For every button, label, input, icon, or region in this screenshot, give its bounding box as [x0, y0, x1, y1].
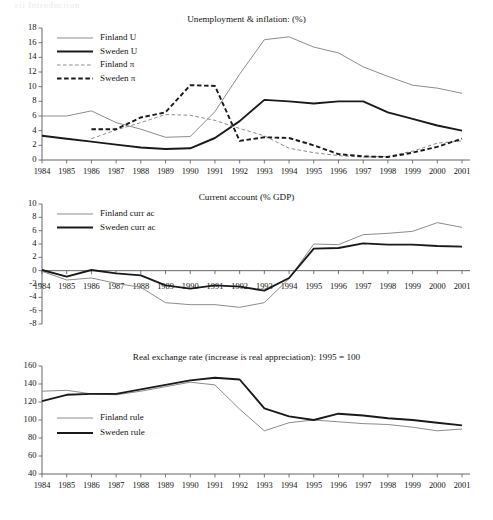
x-tick-label: 1992 [231, 167, 248, 176]
x-tick-label: 2000 [429, 167, 446, 176]
x-tick-label: 1986 [83, 167, 100, 176]
y-tick-label: -6 [29, 305, 37, 315]
x-tick-label: 1986 [83, 481, 100, 490]
x-tick-label: 1988 [132, 481, 149, 490]
x-tick-label: 1999 [404, 481, 421, 490]
y-tick-label: 2 [32, 139, 36, 149]
x-tick-label: 1999 [404, 167, 421, 176]
x-tick-label: 1996 [330, 282, 347, 291]
y-tick-label: 8 [32, 211, 36, 221]
series-line-sweden-curr-ac [42, 243, 462, 290]
x-tick-label: 1992 [231, 481, 248, 490]
legend-label-2: Sweden U [100, 46, 138, 56]
chart-svg-unemployment-inflation: 0246810121416181984198519861987198819891… [0, 14, 493, 196]
y-tick-label: 6 [32, 225, 37, 235]
x-tick-label: 1998 [380, 282, 397, 291]
y-tick-label: 10 [28, 198, 37, 208]
legend-label-4: Sweden π [100, 73, 136, 83]
y-tick-label: 80 [28, 432, 37, 442]
y-tick-label: -4 [29, 291, 37, 301]
y-tick-label: 10 [28, 81, 37, 91]
y-tick-label: 2 [32, 251, 36, 261]
y-tick-label: 12 [28, 66, 37, 76]
chart-panel-real-exchange-rate: Real exchange rate (increase is real app… [0, 352, 493, 520]
running-head: xii Introduction [14, 0, 80, 10]
x-tick-label: 1991 [207, 167, 224, 176]
legend-label-1: Finland curr ac [100, 208, 154, 218]
x-tick-label: 1997 [355, 167, 372, 176]
chart-panel-current-account: Current account (% GDP) -8-6-4-202468101… [0, 192, 493, 356]
x-tick-label: 1989 [157, 167, 174, 176]
x-tick-label: 1995 [305, 167, 322, 176]
x-tick-label: 1987 [108, 167, 125, 176]
y-tick-label: 160 [24, 360, 37, 370]
y-tick-label: 60 [28, 450, 37, 460]
legend-label-2: Sweden curr ac [100, 222, 155, 232]
x-tick-label: 1997 [355, 282, 372, 291]
series-line-sweden [91, 85, 462, 157]
y-tick-label: 140 [24, 378, 37, 388]
y-tick-label: 8 [32, 95, 36, 105]
legend-label-1: Finland U [100, 32, 137, 42]
y-tick-label: 0 [32, 154, 36, 164]
x-tick-label: 1995 [305, 282, 322, 291]
series-line-finland-rule [42, 382, 462, 431]
x-tick-label: 1984 [34, 481, 52, 490]
x-tick-label: 1990 [182, 167, 199, 176]
x-tick-label: 1995 [305, 481, 322, 490]
y-tick-label: 16 [28, 37, 37, 47]
x-tick-label: 2000 [429, 481, 446, 490]
x-tick-label: 1996 [330, 481, 347, 490]
x-tick-label: 1997 [355, 481, 372, 490]
y-tick-label: 0 [32, 265, 36, 275]
legend-label-1: Finland rule [100, 412, 144, 422]
x-tick-label: 1993 [256, 481, 273, 490]
legend-label-2: Sweden rule [100, 427, 145, 437]
x-tick-label: 1994 [281, 167, 299, 176]
x-tick-label: 1991 [207, 481, 224, 490]
x-tick-label: 1989 [157, 481, 174, 490]
chart-svg-current-account: -8-6-4-202468101984198519861987198819891… [0, 192, 493, 356]
x-tick-label: 1985 [58, 481, 75, 490]
x-tick-label: 1984 [34, 167, 52, 176]
x-tick-label: 1994 [281, 481, 299, 490]
x-tick-label: 1986 [83, 282, 100, 291]
y-tick-label: -8 [29, 318, 36, 328]
x-tick-label: 1987 [108, 481, 125, 490]
figure-page: xii Introduction Unemployment & inflatio… [0, 0, 493, 520]
y-tick-label: 14 [28, 51, 37, 61]
x-tick-label: 2001 [454, 481, 471, 490]
x-tick-label: 1996 [330, 167, 347, 176]
chart-svg-real-exchange-rate: 4060801001201401601984198519861987198819… [0, 352, 493, 520]
x-tick-label: 1988 [132, 167, 149, 176]
y-tick-label: 120 [24, 396, 37, 406]
x-tick-label: 1999 [404, 282, 421, 291]
legend-label-3: Finland π [100, 59, 135, 69]
x-tick-label: 2001 [454, 282, 471, 291]
series-line-finland-curr-ac [42, 223, 462, 308]
x-tick-label: 1994 [281, 282, 299, 291]
x-tick-label: 1998 [380, 167, 397, 176]
y-tick-label: 4 [32, 238, 37, 248]
y-tick-label: 4 [32, 125, 37, 135]
x-tick-label: 1998 [380, 481, 397, 490]
x-tick-label: 2001 [454, 167, 471, 176]
series-line-finland [91, 115, 462, 158]
x-tick-label: 2000 [429, 282, 446, 291]
x-tick-label: 1984 [34, 282, 52, 291]
chart-panel-unemployment-inflation: Unemployment & inflation: (%) 0246810121… [0, 14, 493, 196]
x-tick-label: 1985 [58, 282, 75, 291]
x-tick-label: 1990 [182, 282, 199, 291]
y-tick-label: 40 [28, 468, 37, 478]
series-line-sweden-u [42, 100, 462, 149]
y-tick-label: 18 [28, 22, 37, 32]
y-tick-label: 100 [24, 414, 37, 424]
y-tick-label: 6 [32, 110, 37, 120]
x-tick-label: 1990 [182, 481, 199, 490]
x-tick-label: 1993 [256, 167, 273, 176]
x-tick-label: 1985 [58, 167, 75, 176]
